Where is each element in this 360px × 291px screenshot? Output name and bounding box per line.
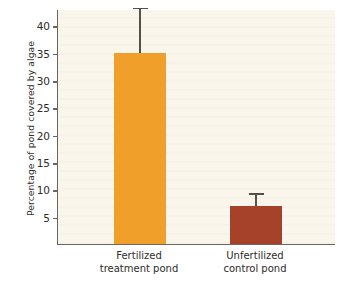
y-axis-tick-label: 35 <box>37 48 50 59</box>
y-axis-tick-label: 20 <box>37 130 50 141</box>
y-axis-tick-mark <box>53 81 58 83</box>
y-axis-tick-mark <box>53 136 58 138</box>
error-bar-stem <box>255 195 256 206</box>
y-axis-tick-mark <box>53 163 58 165</box>
bar <box>114 53 166 244</box>
y-axis-tick-label: 30 <box>37 76 50 87</box>
error-bar-stem <box>139 9 140 53</box>
bar-group <box>114 9 166 244</box>
y-axis-tick-label: 10 <box>37 185 50 196</box>
category-label-line: Unfertilized <box>185 249 325 262</box>
bar-group <box>230 9 282 244</box>
y-axis-tick-mark <box>53 108 58 110</box>
algae-coverage-bar-chart: Percentage of pond covered by algae 5101… <box>0 0 360 291</box>
error-bar-cap <box>133 8 148 9</box>
plot-area: 510152025303540 <box>57 10 335 245</box>
error-bar-cap <box>249 193 264 194</box>
y-axis-tick-mark <box>53 26 58 28</box>
paper-texture <box>58 10 335 244</box>
y-axis-tick-label: 15 <box>37 158 50 169</box>
y-axis-tick-mark <box>53 218 58 220</box>
category-label-line: control pond <box>185 262 325 275</box>
y-axis-tick-label: 40 <box>37 21 50 32</box>
bar <box>230 206 282 244</box>
y-axis-tick-label: 25 <box>37 103 50 114</box>
y-axis-tick-mark <box>53 190 58 192</box>
y-axis-tick-mark <box>53 54 58 56</box>
y-axis-tick-label: 5 <box>43 212 50 223</box>
x-axis-category-label: Unfertilizedcontrol pond <box>185 249 325 275</box>
